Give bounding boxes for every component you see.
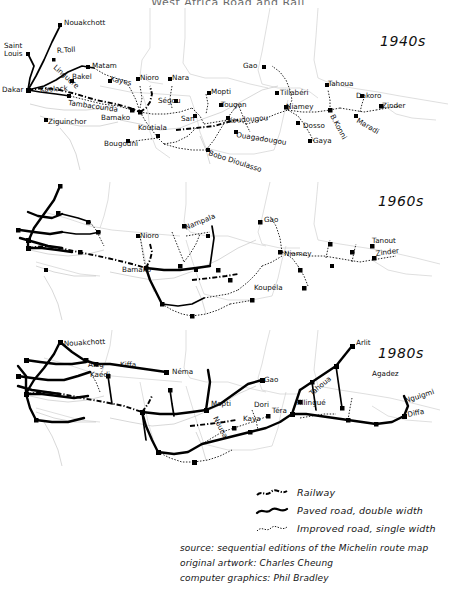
svg-text:Agadez: Agadez <box>372 369 399 378</box>
svg-text:Ségou: Ségou <box>158 96 181 105</box>
svg-text:Ouagadougou: Ouagadougou <box>236 130 287 147</box>
svg-text:Tahoua: Tahoua <box>327 79 354 88</box>
map-page: West Africa Road and Rail <box>0 0 456 607</box>
svg-text:Nioro: Nioro <box>140 231 159 240</box>
svg-text:Dakoro: Dakoro <box>356 91 381 100</box>
svg-text:Nguigmi: Nguigmi <box>404 387 435 405</box>
svg-text:Dosso: Dosso <box>303 121 325 130</box>
svg-text:Kaya: Kaya <box>243 414 261 423</box>
svg-text:Arlit: Arlit <box>356 338 371 347</box>
credits-block: source: sequential editions of the Miche… <box>180 541 456 586</box>
svg-text:Mopti: Mopti <box>211 87 231 96</box>
svg-text:San: San <box>181 114 195 123</box>
svg-text:Gaya: Gaya <box>313 136 332 145</box>
svg-text:Louis: Louis <box>4 49 23 58</box>
svg-text:Zinder: Zinder <box>382 101 405 110</box>
credit-computer-graphics: computer graphics: Phil Bradley <box>180 571 456 586</box>
credit-source: source: sequential editions of the Miche… <box>180 541 456 556</box>
svg-text:Bougouni: Bougouni <box>104 139 138 148</box>
svg-text:Nouakchott: Nouakchott <box>64 18 106 27</box>
svg-text:Ziguinchor: Ziguinchor <box>48 117 86 126</box>
svg-text:Aleg: Aleg <box>88 360 104 369</box>
map-legend: Railway Paved road, double width Improve… <box>255 484 455 538</box>
svg-text:Tillabéri: Tillabéri <box>279 88 309 97</box>
svg-text:Kiffa: Kiffa <box>120 360 136 369</box>
svg-text:Maradi: Maradi <box>355 116 381 136</box>
svg-text:Niamey: Niamey <box>284 249 312 258</box>
svg-text:Bamako: Bamako <box>122 265 151 274</box>
legend-label-paved-road: Paved road, double width <box>297 505 423 516</box>
svg-text:Diffa: Diffa <box>407 407 425 419</box>
railway-line-sample <box>255 485 289 499</box>
svg-text:Kayes: Kayes <box>110 74 133 87</box>
svg-text:Nara: Nara <box>172 73 189 82</box>
svg-text:Bakel: Bakel <box>72 72 92 81</box>
svg-text:Bamako: Bamako <box>101 113 130 122</box>
decade-label-1960s: 1960s <box>378 193 424 209</box>
decade-label-1980s: 1980s <box>378 345 424 361</box>
svg-text:Nouakchott: Nouakchott <box>64 337 106 348</box>
svg-text:Téra: Téra <box>271 406 287 415</box>
city-labels-1940s: Nouakchott Saint Louis R.Toll Linguere M… <box>2 18 405 174</box>
page-title: West Africa Road and Rail <box>0 0 456 5</box>
credit-original-artwork: original artwork: Charles Cheung <box>180 556 456 571</box>
legend-label-improved-road: Improved road, single width <box>297 523 436 534</box>
svg-text:Fillingué: Fillingué <box>296 398 326 407</box>
svg-text:Koutiala: Koutiala <box>138 123 167 132</box>
svg-text:Kaolack: Kaolack <box>40 84 69 94</box>
svg-text:Kaédi: Kaédi <box>90 370 110 379</box>
svg-text:Dori: Dori <box>254 400 269 409</box>
svg-text:Niamey: Niamey <box>286 102 314 111</box>
legend-item-paved-road: Paved road, double width <box>255 502 455 518</box>
svg-text:Nampala: Nampala <box>183 211 216 231</box>
legend-item-improved-road: Improved road, single width <box>255 520 455 536</box>
svg-text:Gao: Gao <box>264 215 278 224</box>
svg-text:Tanout: Tanout <box>371 236 396 245</box>
svg-text:Dakar: Dakar <box>2 85 23 94</box>
legend-label-railway: Railway <box>297 487 335 498</box>
svg-text:Nouna: Nouna <box>211 415 230 440</box>
svg-text:Nioro: Nioro <box>140 73 159 82</box>
paved-roads-1960s <box>20 186 214 306</box>
svg-text:Matam: Matam <box>92 61 117 70</box>
svg-text:Néma: Néma <box>172 367 193 376</box>
svg-text:Koudougou: Koudougou <box>228 113 269 125</box>
improved-road-line-sample <box>255 521 289 535</box>
svg-text:Tambacounda: Tambacounda <box>67 98 119 114</box>
svg-text:Gao: Gao <box>243 61 257 70</box>
svg-text:Koupéla: Koupéla <box>254 283 283 292</box>
svg-text:Gao: Gao <box>264 375 278 384</box>
decade-label-1940s: 1940s <box>380 33 426 49</box>
paved-road-line-sample <box>255 503 289 517</box>
svg-text:Mopti: Mopti <box>211 399 231 408</box>
svg-text:Bobo Dioulasso: Bobo Dioulasso <box>207 148 262 174</box>
svg-text:R.Toll: R.Toll <box>57 45 76 55</box>
legend-item-railway: Railway <box>255 484 455 500</box>
svg-text:Tougan: Tougan <box>220 100 247 109</box>
